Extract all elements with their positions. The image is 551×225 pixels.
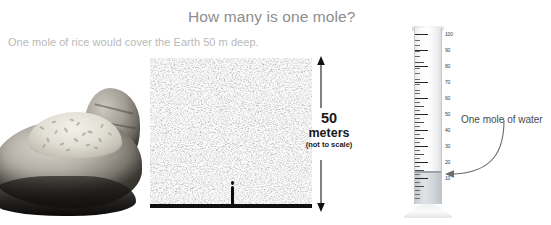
cylinder-tick-label: 70 — [445, 80, 450, 85]
page-title: How many is one mole? — [188, 8, 356, 26]
slide-canvas: How many is one mole? One mole of rice w… — [0, 0, 551, 225]
dimension-unit: meters — [296, 126, 362, 140]
hand-holding-rice-photo — [0, 72, 142, 216]
cylinder-scale: 100 90 80 70 60 50 40 30 20 10 — [414, 28, 442, 204]
height-dimension-label: 50 meters (not to scale) — [296, 110, 362, 150]
cylinder-tick-label: 60 — [445, 96, 450, 101]
page-subtitle: One mole of rice would cover the Earth 5… — [8, 36, 259, 48]
cylinder-tick-label: 80 — [445, 64, 450, 69]
hand-shadow — [0, 176, 136, 216]
ground-line — [150, 204, 312, 208]
cylinder-base — [404, 204, 452, 218]
cylinder-tick-label: 90 — [445, 48, 450, 53]
scale-human-figure — [230, 181, 235, 204]
cylinder-tick-label: 50 — [445, 112, 450, 117]
water-callout-arrow — [440, 118, 516, 186]
dimension-value: 50 — [296, 110, 362, 126]
dimension-note: (not to scale) — [296, 141, 362, 149]
rice-field-panel — [150, 58, 312, 208]
cylinder-tick-label: 100 — [445, 32, 453, 37]
